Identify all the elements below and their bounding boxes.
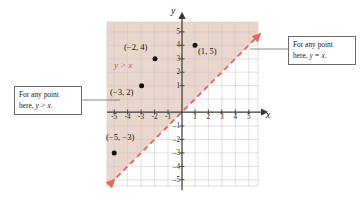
x-tick-neg2: -2	[149, 113, 161, 121]
callout-left: For any point here, y > x.	[14, 86, 82, 115]
x-tick-neg3: -3	[135, 113, 147, 121]
callout-right-line1: For any point	[293, 40, 351, 51]
x-tick-2: 2	[203, 113, 214, 121]
point-label-neg5-neg3: (−5, −3)	[106, 132, 134, 142]
data-point-1-5	[193, 43, 198, 48]
point-label-neg2-4: (−2, 4)	[124, 42, 147, 52]
callout-left-math: y > x	[35, 101, 50, 110]
callout-left-line1: For any point	[19, 90, 77, 101]
y-tick-3: 3	[172, 55, 180, 63]
callout-right: For any point here, y = x.	[288, 36, 356, 65]
point-label-neg3-2: (−3, 2)	[110, 87, 133, 97]
data-point-neg5-neg3	[112, 150, 117, 155]
y-tick-2: 2	[172, 68, 180, 76]
y-tick-neg3: –3	[170, 149, 180, 157]
callout-left-line2: here, y > x.	[19, 101, 77, 112]
x-tick-3: 3	[216, 113, 227, 121]
y-axis-label: y	[171, 6, 175, 16]
y-tick-4: 4	[172, 41, 180, 49]
data-point-neg2-4	[153, 56, 158, 61]
callout-right-math: y = x	[309, 51, 324, 60]
x-tick-4: 4	[230, 113, 241, 121]
figure-canvas: y x -5 -4 -3 -2 -1 1 2 3 4 5 5 4 3 2 1 –…	[0, 0, 362, 201]
x-tick-neg4: -4	[122, 113, 134, 121]
x-tick-neg5: -5	[108, 113, 120, 121]
x-tick-neg1: -1	[162, 113, 174, 121]
y-tick-neg4: –4	[170, 163, 180, 171]
callout-right-line2: here, y = x.	[293, 51, 351, 62]
region-inequality-label: y > x	[114, 60, 133, 70]
x-tick-5: 5	[243, 113, 254, 121]
data-point-neg3-2	[139, 83, 144, 88]
y-tick-neg2: –2	[170, 136, 180, 144]
y-tick-neg5: –5	[170, 176, 180, 184]
y-tick-1: 1	[172, 82, 180, 90]
point-label-1-5: (1, 5)	[198, 46, 217, 56]
y-tick-neg1: –1	[170, 122, 180, 130]
y-tick-5: 5	[172, 28, 180, 36]
x-tick-1: 1	[190, 113, 201, 121]
x-axis-label: x	[266, 110, 270, 120]
